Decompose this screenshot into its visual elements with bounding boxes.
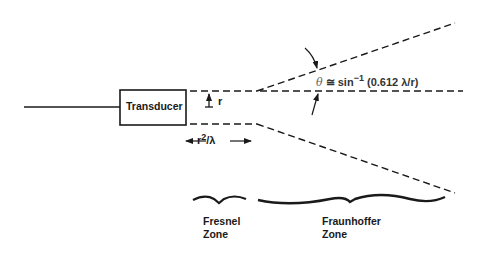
approx-relation: ≅	[326, 76, 335, 88]
fraunhoffer-zone-label: Fraunhoffer Zone	[322, 215, 381, 241]
beam-lower-far-edge	[257, 124, 455, 193]
angle-arrow-lower-icon	[312, 94, 318, 115]
near-field-suffix: /λ	[206, 134, 215, 146]
divergence-angle-formula: θ ≅ sin−1 (0.612 λ/r)	[316, 73, 418, 89]
theta-symbol: θ	[316, 76, 323, 89]
angle-arrow-upper-icon	[305, 48, 317, 68]
inverse-exponent: −1	[354, 73, 364, 83]
fresnel-zone-word: Zone	[203, 228, 240, 241]
fraunhoffer-zone-name: Fraunhoffer	[322, 215, 381, 228]
fraunhoffer-zone-brace	[258, 195, 445, 203]
radius-label: r	[218, 95, 222, 107]
fresnel-zone-name: Fresnel	[203, 215, 240, 228]
transducer-label: Transducer	[126, 100, 183, 112]
fresnel-zone-label: Fresnel Zone	[203, 215, 240, 241]
angle-argument: (0.612 λ/r)	[367, 76, 418, 88]
beam-diagram-canvas	[0, 0, 483, 255]
fraunhoffer-zone-word: Zone	[322, 228, 381, 241]
sine-function: sin	[338, 76, 354, 88]
near-field-length-formula: r2/λ	[197, 132, 215, 146]
fresnel-zone-brace	[193, 197, 246, 204]
